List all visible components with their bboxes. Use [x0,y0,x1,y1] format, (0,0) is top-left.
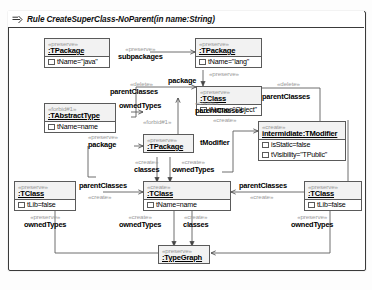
node-name: :TAbstractType [45,112,115,121]
node-attribute: isStatic=false [259,140,345,150]
edge-stereotype: «forbid#1» [143,118,171,126]
edge-label-parentclasses-right-stereo: «create» [250,193,273,201]
edge-name: classes [134,166,159,174]
node-attributes: isStatic=false tVisibility="TPublic" [259,139,345,160]
edge-name: package [168,77,196,85]
attribute-box-icon [48,59,55,65]
edge-name: subpackages [118,53,163,61]
attribute-text: tVisibility="TPublic" [271,151,327,159]
node-attribute: tName="lang" [196,57,261,67]
edge-name: ownedTypes [119,221,161,229]
page-title: Rule CreateSuperClass-NoParent(in name:S… [27,15,215,24]
edge-label-parentclasses-right: parentClasses [239,182,287,190]
rule-title-bar: Rule CreateSuperClass-NoParent(in name:S… [8,11,364,28]
edge-label-package-top: «preserve» [209,70,239,78]
attribute-box-icon [308,202,315,208]
edge-label-package-top-name: package [168,77,196,85]
edge-label-classes-center: «create» classes [183,213,208,228]
edge-label-ownedtypes-left: «preserve» ownedTypes [24,213,66,228]
node-name: :TClass [15,190,75,199]
edge-label-parentclasses-left-stereo: «create» [88,193,111,201]
node-name: :TypeGraph [159,254,209,263]
node-typegraph[interactable]: «preserve» :TypeGraph [158,245,210,264]
attribute-box-icon [147,202,154,208]
node-class-new[interactable]: «create» :TClass tName=name [143,181,231,211]
edge-stereotype: «delete» [277,80,300,88]
edge-label-tmodifier-stereo: «create» [213,116,236,124]
node-class-left[interactable]: «preserve» :TClass tLib=false [14,181,76,211]
attribute-text: tName="java" [57,58,98,66]
attribute-box-icon [262,152,269,158]
node-modifier[interactable]: «create» intermidiate:TModifier isStatic… [258,121,346,161]
node-pkg-java[interactable]: «preserve» :TPackage tName="java" [44,38,110,68]
edge-label-parentclasses-delete2: «delete» [277,80,300,88]
node-attributes: tName="java" [45,56,109,67]
edge-name: parentClasses [110,88,158,96]
node-attribute: tLib=false [15,200,75,210]
edge-label-ownedtypes-mid: «create» ownedTypes [172,158,214,173]
edge-stereotype: «create» [88,193,111,201]
node-attributes: tLib=false [305,199,361,210]
attribute-box-icon [262,142,269,148]
node-attribute: tLib=false [305,200,361,210]
node-name: :TClass [305,190,361,199]
edge-name: classes [183,221,208,229]
edge-stereotype: «preserve» [209,70,239,78]
edge-stereotype: «create» [213,116,236,124]
edge-name: ownedTypes [172,166,214,174]
attribute-text: tName=name [57,123,98,131]
node-name: intermidiate:TModifier [259,130,345,139]
edge-label-ownedtypes-forbid: ownedTypes [119,102,161,110]
attribute-text: tLib=false [27,201,56,209]
node-abstract-type[interactable]: «forbid#1» :TAbstractType tName=name [44,103,116,133]
attribute-box-icon [199,59,206,65]
node-name: :TClass [144,190,230,199]
edge-name: parentClasses [195,107,243,115]
node-attributes: tName=name [45,121,115,132]
edge-label-package-mid: «preserve» package [88,133,118,148]
edge-name: parentClasses [262,93,310,101]
attribute-text: isStatic=false [271,141,310,149]
edge-stereotype: «create» [250,193,273,201]
edge-label-classes-mid: «create» classes [134,158,159,173]
edge-name: parentClasses [239,182,287,190]
node-name: :TPackage [144,143,193,152]
attribute-text: tName=name [156,201,197,209]
node-attribute: tName="java" [45,57,109,67]
attribute-box-icon [18,202,25,208]
node-pkg-lang[interactable]: «preserve» :TPackage tName="lang" [195,38,262,68]
edge-name: ownedTypes [24,221,66,229]
node-attributes: tName=name [144,199,230,210]
attribute-text: tLib=false [317,201,346,209]
diagram-canvas: Rule CreateSuperClass-NoParent(in name:S… [0,0,372,290]
node-pkg-mid[interactable]: «preserve» :TPackage [143,134,194,153]
edge-name: tModifier [200,139,229,147]
attribute-box-icon [48,124,55,130]
node-name: :TPackage [45,47,109,56]
edge-label-subpackages: «preserve» subpackages [118,45,163,60]
edge-label-tmodifier: tModifier [200,139,229,147]
edge-label-parentclasses-delete2-name: parentClasses [262,93,310,101]
node-attributes: tLib=false [15,199,75,210]
edge-name: package [88,141,118,149]
node-attributes: tName="lang" [196,56,261,67]
node-attribute: tVisibility="TPublic" [259,150,345,160]
attribute-text: tName="lang" [208,58,249,66]
edge-label-parentclasses-left: parentClasses [79,182,127,190]
edge-name: ownedTypes [119,102,161,110]
edge-name: ownedTypes [291,221,333,229]
node-attribute: tName=name [144,200,230,210]
edge-label-parentclasses-create: «create» parentClasses [195,99,243,114]
node-class-right[interactable]: «preserve» :TClass tLib=false [304,181,362,211]
rule-arrow-icon [12,15,23,24]
edge-label-forbid-stereo: «forbid#1» [143,118,171,126]
edge-name: parentClasses [79,182,127,190]
node-name: :TPackage [196,47,261,56]
edge-label-ownedtypes-center: «create» ownedTypes [119,213,161,228]
edge-label-ownedtypes-right: «preserve» ownedTypes [291,213,333,228]
node-attribute: tName=name [45,122,115,132]
edge-label-parentclasses-delete-name: parentClasses [110,88,158,96]
